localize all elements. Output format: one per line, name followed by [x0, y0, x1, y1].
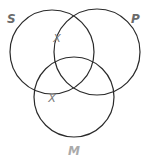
circle-p [54, 9, 140, 95]
venn-diagram: S P M X X [0, 0, 149, 160]
x-mark-upper: X [52, 32, 61, 45]
circle-s [10, 10, 94, 94]
label-s: S [7, 12, 16, 26]
label-m: M [68, 144, 80, 158]
label-p: P [131, 12, 140, 26]
x-mark-lower: X [47, 92, 56, 105]
circle-m [34, 57, 114, 137]
